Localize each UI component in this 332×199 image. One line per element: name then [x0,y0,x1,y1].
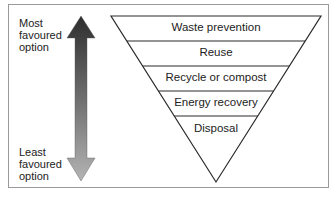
least-favoured-label: Least favoured option [19,146,62,182]
label-line: favoured [19,29,62,41]
band-reuse: Reuse [199,46,232,58]
band-energy-recovery: Energy recovery [174,96,258,108]
label-line: favoured [19,158,62,170]
label-line: Most [19,17,62,29]
most-favoured-label: Most favoured option [19,17,62,53]
label-line: Least [19,146,62,158]
band-recycle-or-compost: Recycle or compost [166,71,267,83]
band-waste-prevention: Waste prevention [171,21,260,33]
label-line: option [19,41,62,53]
preference-arrow-icon [67,16,95,181]
label-line: option [19,170,62,182]
band-disposal: Disposal [194,122,238,134]
